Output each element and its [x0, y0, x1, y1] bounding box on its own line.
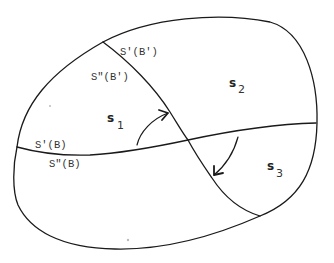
curve-b-prime	[103, 42, 260, 216]
rotation-arrow-down-icon	[214, 137, 238, 175]
label-s-double-prime-b: S"(B)	[49, 158, 81, 170]
region-label-s1: s 1	[107, 111, 124, 132]
region-label-s2: s 2	[229, 76, 245, 96]
svg-text:s: s	[229, 76, 236, 90]
scan-speck	[49, 105, 51, 107]
outer-boundary-curve	[14, 17, 317, 249]
label-s-prime-b: S'(B)	[35, 139, 67, 151]
rotation-arrow-up-icon	[137, 110, 168, 145]
svg-text:s: s	[267, 159, 274, 173]
region-label-s3: s 3	[267, 159, 283, 180]
region-diagram: S'(B') S"(B') S'(B) S"(B) s 1 s 2 s 3	[0, 0, 334, 263]
svg-text:s: s	[107, 111, 114, 125]
svg-text:1: 1	[117, 119, 124, 132]
svg-text:3: 3	[276, 167, 283, 180]
label-s-double-prime-b-prime: S"(B')	[91, 71, 129, 83]
svg-text:2: 2	[238, 83, 245, 96]
scan-speck	[127, 239, 129, 241]
label-s-prime-b-prime: S'(B')	[120, 46, 158, 58]
